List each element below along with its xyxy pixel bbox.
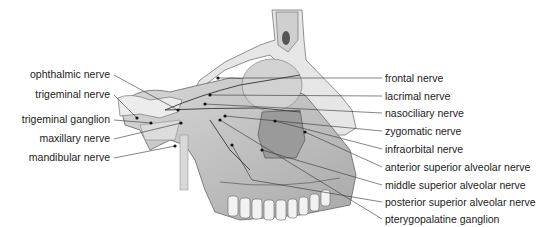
label-lacrimal-nerve: lacrimal nerve [385, 90, 450, 102]
label-middle-superior-alveolar-nerve: middle superior alveolar nerve [385, 179, 526, 191]
label-frontal-nerve: frontal nerve [385, 72, 443, 84]
label-trigeminal-nerve: trigeminal nerve [35, 88, 110, 100]
label-trigeminal-ganglion: trigeminal ganglion [22, 113, 110, 125]
label-pterygopalatine-ganglion: pterygopalatine ganglion [385, 213, 499, 225]
label-ophthalmic-nerve: ophthalmic nerve [30, 68, 110, 80]
label-anterior-superior-alveolar-nerve: anterior superior alveolar nerve [385, 161, 530, 173]
label-posterior-superior-alveolar-nerve: posterior superior alveolar nerve [385, 196, 536, 208]
label-mandibular-nerve: mandibular nerve [29, 151, 110, 163]
label-zygomatic-nerve: zygomatic nerve [385, 125, 461, 137]
label-infraorbital-nerve: infraorbital nerve [385, 143, 463, 155]
label-maxillary-nerve: maxillary nerve [39, 132, 110, 144]
label-nasociliary-nerve: nasociliary nerve [385, 107, 464, 119]
